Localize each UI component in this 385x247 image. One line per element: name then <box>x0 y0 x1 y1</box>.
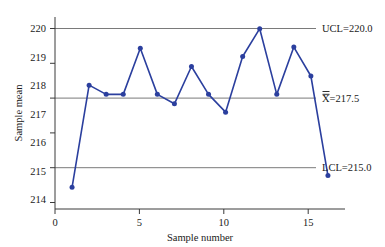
chart-background <box>0 0 385 247</box>
y-tick-label-218: 218 <box>30 80 46 91</box>
data-point-6 <box>155 92 160 97</box>
data-point-13 <box>274 92 279 97</box>
data-point-2 <box>87 83 92 88</box>
data-point-3 <box>104 92 109 97</box>
data-point-5 <box>138 46 143 51</box>
lcl-label: LCL=215.0 <box>322 162 371 173</box>
data-point-12 <box>257 26 262 31</box>
data-point-8 <box>189 64 194 69</box>
data-point-10 <box>223 110 228 115</box>
data-point-7 <box>172 101 177 106</box>
data-point-11 <box>240 54 245 59</box>
x-tick-label-15: 15 <box>303 217 314 228</box>
data-point-14 <box>291 45 296 50</box>
ucl-label: UCL=220.0 <box>322 23 373 34</box>
x-tick-label-0: 0 <box>52 217 57 228</box>
data-point-9 <box>206 92 211 97</box>
y-tick-label-220: 220 <box>30 23 46 34</box>
x-tick-label-10: 10 <box>219 217 230 228</box>
data-point-4 <box>121 92 126 97</box>
chart-canvas: 220 219 218 217 216 215 214 0 5 10 15 Sa… <box>0 0 385 247</box>
data-point-15 <box>308 73 313 78</box>
y-tick-label-219: 219 <box>30 52 46 63</box>
data-point-16 <box>325 173 330 178</box>
center-line-label-group: X=217.5 <box>322 92 359 105</box>
x-axis-title: Sample number <box>167 232 234 243</box>
center-line-value: =217.5 <box>330 93 360 104</box>
x-tick-label-5: 5 <box>137 217 142 228</box>
y-tick-label-214: 214 <box>30 194 47 205</box>
y-axis-title: Sample mean <box>13 84 24 142</box>
data-point-1 <box>70 185 75 190</box>
control-chart: 220 219 218 217 216 215 214 0 5 10 15 Sa… <box>0 0 385 247</box>
y-tick-label-216: 216 <box>30 137 46 148</box>
y-tick-label-215: 215 <box>30 166 46 177</box>
y-tick-label-217: 217 <box>30 109 46 120</box>
